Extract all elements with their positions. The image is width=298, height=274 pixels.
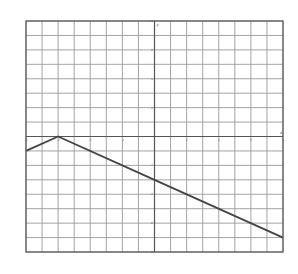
x-tick-label: 6 [250, 138, 252, 142]
y-tick-label: -6 [150, 221, 153, 225]
x-tick-label: 2 [186, 138, 188, 142]
y-tick-label: 2 [151, 106, 153, 110]
y-tick-label: -2 [150, 163, 153, 167]
x-tick-label: -6 [57, 138, 60, 142]
y-tick-label: 6 [151, 48, 153, 52]
x-axis-label: x [279, 130, 283, 135]
y-axis-label: y [156, 22, 160, 27]
x-tick-label: 4 [218, 138, 220, 142]
axes [26, 21, 283, 252]
coordinate-plane-chart: -8-6-4-22468-8-6-4-22468 x y [0, 0, 298, 274]
x-tick-label: -2 [121, 138, 124, 142]
x-tick-label: -4 [89, 138, 92, 142]
y-tick-label: 4 [151, 77, 153, 81]
y-tick-label: -4 [150, 192, 153, 196]
